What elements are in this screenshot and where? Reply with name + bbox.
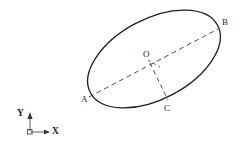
coordinate-axes-group: [27, 112, 50, 135]
dashed-lines-group: [89, 29, 218, 100]
x-axis-arrowhead: [44, 129, 50, 134]
y-axis-label: Y: [17, 109, 24, 118]
vertex-label-c: C: [164, 104, 170, 113]
x-axis-label: X: [52, 127, 59, 136]
vertex-label-a: A: [81, 95, 88, 104]
ellipse-outline-group: [72, 0, 237, 128]
diagram-canvas: [0, 0, 239, 151]
y-axis-arrowhead: [27, 112, 32, 119]
vertex-label-b: B: [222, 18, 228, 27]
vertex-label-o: O: [143, 50, 150, 59]
ellipse-diagram: A B C O X Y: [0, 0, 239, 151]
radius-line-OC: [150, 63, 168, 100]
ellipse-outline: [72, 0, 237, 128]
